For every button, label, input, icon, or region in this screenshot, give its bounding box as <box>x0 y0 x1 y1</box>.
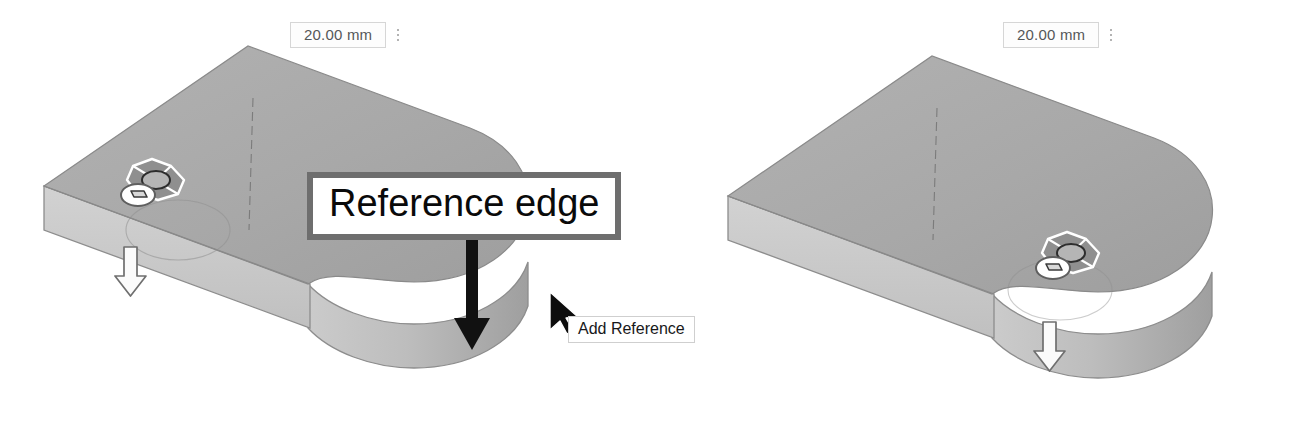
kebab-menu-icon[interactable] <box>390 24 406 46</box>
reference-edge-callout-label: Reference edge <box>329 182 599 226</box>
reference-edge-callout: Reference edge <box>307 172 621 240</box>
kebab-menu-icon[interactable] <box>1103 24 1119 46</box>
dimension-chip-left[interactable]: 20.00 mm <box>290 22 406 48</box>
dimension-value-right[interactable]: 20.00 mm <box>1003 22 1099 48</box>
left-view-panel: 20.00 mm Reference edge Add Reference <box>0 0 660 425</box>
add-reference-tooltip-label: Add Reference <box>578 320 685 337</box>
add-reference-tooltip: Add Reference <box>568 316 695 343</box>
right-part-3d-model[interactable] <box>660 0 1303 425</box>
right-view-panel: 20.00 mm <box>660 0 1303 425</box>
dimension-value-left[interactable]: 20.00 mm <box>290 22 386 48</box>
face-select-icon[interactable] <box>121 184 155 206</box>
screenshot-root: 20.00 mm Reference edge Add Reference <box>0 0 1303 425</box>
face-select-icon[interactable] <box>1036 257 1070 279</box>
dimension-chip-right[interactable]: 20.00 mm <box>1003 22 1119 48</box>
